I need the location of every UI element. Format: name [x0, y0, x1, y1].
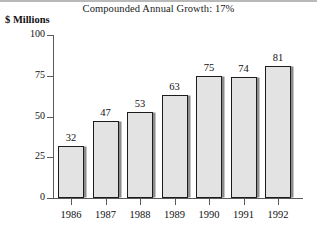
bar-1988 [127, 112, 153, 198]
bar-value-label-1986: 32 [54, 132, 89, 143]
bar-1989 [162, 95, 188, 198]
x-axis-line [53, 198, 303, 199]
bar-chart-figure: Compounded Annual Growth: 17% $ Millions… [0, 0, 317, 239]
x-axis-tick-mark [140, 199, 141, 205]
chart-title: Compounded Annual Growth: 17% [0, 3, 317, 14]
y-axis-tick-label: 50 [35, 110, 45, 121]
x-axis-tick-mark [106, 199, 107, 205]
y-axis-tick-mark [47, 198, 53, 199]
bar-value-label-1992: 81 [261, 52, 296, 63]
y-axis-tick-label: 100 [30, 28, 45, 39]
y-axis-line [53, 35, 54, 199]
bar-value-label-1990: 75 [192, 62, 227, 73]
x-axis-tick-label-1988: 1988 [123, 209, 158, 220]
x-axis-tick-label-1990: 1990 [192, 209, 227, 220]
x-axis-tick-label-1992: 1992 [261, 209, 296, 220]
y-axis-tick-mark [47, 157, 53, 158]
bar-1990 [196, 76, 222, 198]
x-axis-tick-label-1989: 1989 [157, 209, 192, 220]
bar-1986 [58, 146, 84, 198]
scan-edge-line [0, 0, 317, 2]
y-axis-tick-mark [47, 76, 53, 77]
x-axis-tick-mark [278, 199, 279, 205]
bar-1987 [93, 121, 119, 198]
y-axis-tick-mark [47, 35, 53, 36]
y-axis-tick-label: 75 [35, 69, 45, 80]
bar-value-label-1987: 47 [88, 107, 123, 118]
x-axis-tick-label-1987: 1987 [88, 209, 123, 220]
bar-value-label-1989: 63 [157, 81, 192, 92]
bar-value-label-1988: 53 [123, 98, 158, 109]
x-axis-tick-mark [175, 199, 176, 205]
x-axis-tick-mark [71, 199, 72, 205]
bar-value-label-1991: 74 [226, 63, 261, 74]
x-axis-tick-label-1986: 1986 [54, 209, 89, 220]
y-axis-tick-label: 25 [35, 150, 45, 161]
x-axis-tick-mark [209, 199, 210, 205]
y-axis-tick-mark [47, 117, 53, 118]
bar-1992 [265, 66, 291, 198]
bar-1991 [231, 77, 257, 198]
y-axis-label: $ Millions [5, 14, 50, 25]
y-axis-tick-label: 0 [40, 191, 45, 202]
x-axis-tick-mark [244, 199, 245, 205]
x-axis-tick-label-1991: 1991 [226, 209, 261, 220]
